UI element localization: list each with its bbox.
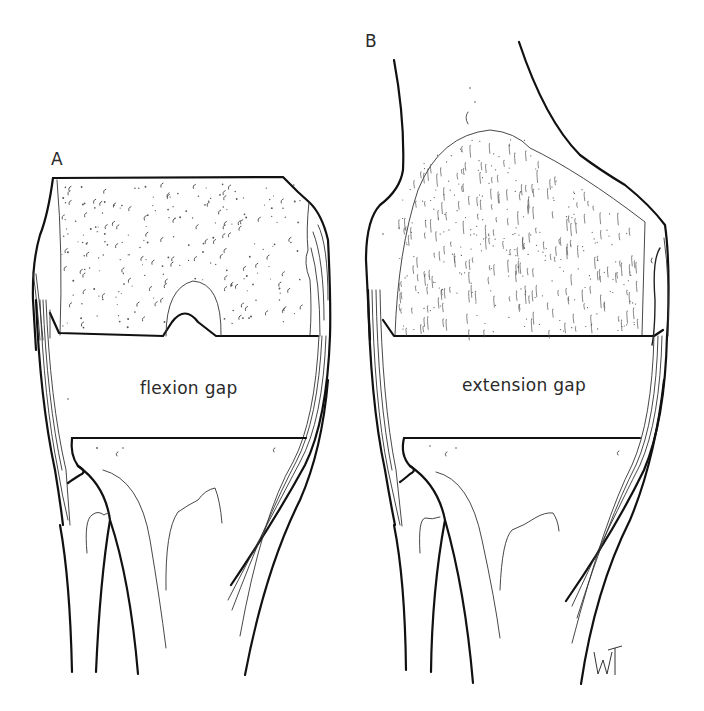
hatch-dot — [479, 194, 480, 195]
stipple-dot — [223, 206, 224, 207]
stipple-dot — [257, 273, 258, 274]
hatch-dot — [506, 250, 507, 251]
hatch-dot — [495, 239, 496, 240]
hatch-dot — [476, 226, 477, 227]
hatch-stroke — [415, 286, 416, 291]
stipple-dot — [98, 257, 99, 258]
stipple-dot — [98, 295, 99, 296]
stipple-dot — [234, 191, 235, 192]
hatch-stroke — [485, 164, 486, 173]
stipple-dot — [271, 216, 272, 217]
hatch-stroke — [404, 228, 405, 234]
flexion-gap-label: flexion gap — [140, 378, 238, 398]
stipple-dot — [82, 204, 84, 206]
stipple-dot — [242, 317, 244, 319]
hatch-stroke — [491, 204, 492, 209]
stipple-dot — [297, 222, 299, 224]
hatch-stroke — [535, 228, 536, 233]
stipple-dot — [269, 199, 270, 200]
hatch-dot — [411, 232, 412, 233]
hatch-stroke — [471, 285, 472, 297]
stipple-arc — [240, 220, 242, 224]
stipple-arc — [80, 269, 82, 273]
hatch-dot — [539, 324, 540, 325]
stipple-dot — [118, 291, 119, 292]
stipple-dot — [103, 254, 104, 255]
stipple-dot — [252, 284, 254, 286]
hatch-dot — [538, 188, 539, 189]
stipple-arc — [141, 257, 143, 261]
hatch-dot — [451, 155, 452, 156]
hatch-dot — [585, 326, 586, 327]
hatch-stroke — [627, 310, 628, 323]
hatch-stroke — [427, 316, 428, 329]
hatch-stroke — [436, 231, 437, 241]
hatch-dot — [608, 236, 609, 237]
hatch-stroke — [633, 307, 634, 318]
stipple-dot — [272, 246, 273, 247]
hatch-stroke — [442, 303, 443, 312]
hatch-stroke — [556, 246, 557, 255]
hatch-dot — [452, 254, 453, 255]
stipple-dot — [270, 278, 271, 279]
hatch-dot — [563, 271, 564, 272]
stipple-dot — [107, 244, 109, 246]
hatch-dot — [498, 156, 499, 157]
stipple-arc — [265, 311, 267, 315]
panel-a-label: A — [51, 149, 63, 169]
hatch-stroke — [543, 241, 544, 249]
stipple-arc — [100, 201, 102, 205]
hatch-dot — [427, 284, 428, 285]
hatch-stroke — [547, 188, 548, 199]
stipple-dot — [226, 269, 228, 271]
hatch-stroke — [468, 196, 469, 205]
hatch-stroke — [494, 296, 495, 308]
hatch-dot — [509, 168, 510, 169]
hatch-stroke — [405, 227, 406, 231]
hatch-stroke — [443, 318, 444, 326]
stipple-arc — [142, 317, 144, 321]
hatch-dot — [528, 254, 529, 255]
hatch-dot — [446, 161, 447, 162]
hatch-stroke — [469, 290, 470, 302]
hatch-stroke — [496, 217, 497, 221]
hatch-stroke — [573, 314, 574, 323]
stipple-dot — [62, 197, 64, 199]
hatch-dot — [459, 272, 460, 273]
hatch-stroke — [636, 262, 637, 273]
stipple-arc — [223, 234, 225, 238]
hatch-stroke — [560, 237, 561, 245]
hatch-dot — [518, 234, 519, 235]
hatch-dot — [536, 245, 537, 246]
stipple-dot — [224, 318, 226, 320]
stipple-dot — [65, 219, 66, 220]
hatch-stroke — [461, 169, 462, 173]
hatch-stroke — [600, 230, 601, 239]
stipple-arc — [104, 189, 106, 193]
hatch-stroke — [627, 290, 628, 295]
hatch-dot — [475, 302, 476, 303]
hatch-dot — [609, 213, 610, 214]
hatch-stroke — [440, 167, 441, 176]
stipple-dot — [219, 194, 221, 196]
hatch-stroke — [414, 180, 415, 188]
stipple-dot — [83, 327, 85, 329]
hatch-stroke — [531, 318, 532, 331]
hatch-dot — [560, 259, 561, 260]
stipple-arc — [137, 302, 139, 306]
hatch-dot — [508, 317, 509, 318]
hatch-stroke — [408, 235, 409, 245]
stipple-dot — [185, 210, 187, 212]
hatch-stroke — [442, 202, 443, 214]
hatch-stroke — [595, 257, 596, 269]
hatch-stroke — [559, 239, 560, 244]
hatch-stroke — [480, 172, 481, 183]
stipple-dot — [231, 323, 232, 324]
stipple-dot — [299, 279, 301, 281]
hatch-dot — [523, 216, 524, 217]
panel-b: B extension gap — [365, 31, 669, 684]
stipple-arc — [196, 225, 198, 229]
hatch-dot — [483, 238, 484, 239]
hatch-stroke — [518, 211, 519, 224]
hatch-dot — [585, 287, 586, 288]
